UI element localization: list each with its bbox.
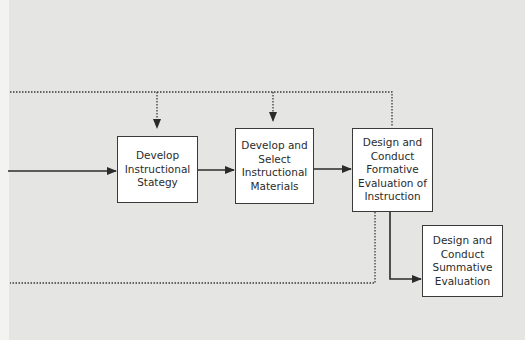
box-line: Design and — [358, 136, 427, 150]
box-line: Select — [241, 153, 307, 167]
box-line: Conduct — [433, 248, 493, 262]
box-line: Evaluation of — [358, 177, 427, 191]
box-develop-select-materials: Develop and Select Instructional Materia… — [235, 128, 314, 204]
box-line: Design and — [433, 234, 493, 248]
box-line: Develop and — [241, 139, 307, 153]
box-line: Develop — [125, 149, 191, 163]
box-line: Formative — [358, 163, 427, 177]
box-line: Stategy — [125, 176, 191, 190]
box-line: Conduct — [358, 150, 427, 164]
box-line: Instructional — [125, 163, 191, 177]
box-summative-evaluation: Design and Conduct Summative Evaluation — [422, 225, 503, 297]
box-line: Materials — [241, 180, 307, 194]
feedback-bottom-line — [10, 212, 375, 283]
box-develop-instructional-strategy: Develop Instructional Stategy — [117, 136, 198, 203]
feedback-top-line — [10, 92, 392, 128]
box-line: Instructional — [241, 166, 307, 180]
box-line: Summative — [433, 261, 493, 275]
box-formative-evaluation: Design and Conduct Formative Evaluation … — [352, 128, 433, 212]
box-line: Evaluation — [433, 275, 493, 289]
box-line: Instruction — [358, 190, 427, 204]
